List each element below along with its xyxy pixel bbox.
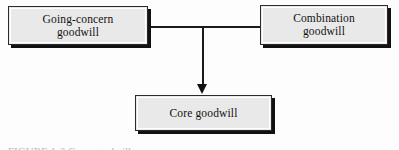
node-core-goodwill[interactable]: Core goodwill	[135, 95, 272, 131]
node-label-line1: Core goodwill	[169, 107, 237, 119]
figure-caption-clipped: FIGURE 1-2 Core goodwill	[8, 145, 368, 150]
node-label-line1: Going-concern	[43, 13, 114, 25]
node-combination-goodwill[interactable]: Combination goodwill	[260, 5, 388, 45]
node-label: Going-concern goodwill	[39, 13, 118, 39]
connector-vertical-line	[202, 26, 204, 85]
node-label-line2: goodwill	[303, 25, 345, 37]
node-label-line2: goodwill	[57, 26, 99, 38]
node-label: Combination goodwill	[289, 12, 359, 38]
diagram-canvas: Going-concern goodwill Combination goodw…	[0, 0, 399, 150]
arrowhead-down-icon	[197, 84, 207, 94]
node-label: Core goodwill	[165, 107, 241, 120]
node-going-concern-goodwill[interactable]: Going-concern goodwill	[8, 6, 148, 45]
node-label-line1: Combination	[293, 12, 355, 24]
connector-horizontal-line	[148, 26, 260, 28]
